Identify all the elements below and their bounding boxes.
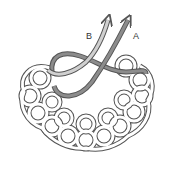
strand-a-label: A	[133, 31, 139, 41]
knot-diagram	[0, 0, 173, 172]
strand-b-label: B	[86, 31, 92, 41]
